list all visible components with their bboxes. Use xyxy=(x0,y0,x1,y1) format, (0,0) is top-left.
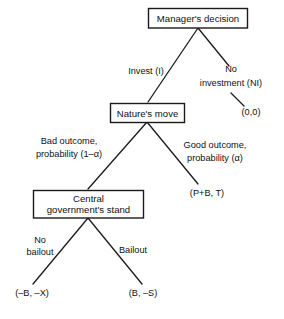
edge-label-bad-outcome-line2: probability (1–α) xyxy=(36,149,102,159)
edge-no-investment-payoff-line xyxy=(231,93,244,106)
node-managers-decision[interactable]: Manager's decision xyxy=(149,9,248,29)
edge-label-invest: Invest (I) xyxy=(128,66,164,76)
node-natures-move-label: Nature's move xyxy=(117,108,179,119)
node-central-governments-stand-label-line2: government's stand xyxy=(47,204,130,215)
payoff-no-investment: (0,0) xyxy=(242,107,261,117)
payoff-no-bailout: (–B, –X) xyxy=(15,288,49,298)
node-managers-decision-label: Manager's decision xyxy=(157,13,239,24)
edge-label-no-bailout-line1: No xyxy=(34,235,46,245)
edge-label-no-bailout-line2: bailout xyxy=(26,247,54,257)
edge-label-good-outcome-line2: probability (α) xyxy=(187,153,243,163)
edge-label-bad-outcome-line1: Bad outcome, xyxy=(41,136,98,146)
edge-label-no-investment-line2: investment (NI) xyxy=(200,78,262,88)
decision-tree-canvas: Manager's decision Nature's move Central… xyxy=(0,0,284,319)
payoff-good-outcome: (P+B, T) xyxy=(190,188,224,198)
edge-label-good-outcome-line1: Good outcome, xyxy=(184,140,247,150)
payoff-bailout: (B, –S) xyxy=(129,288,158,298)
node-natures-move[interactable]: Nature's move xyxy=(111,104,185,123)
node-central-governments-stand-label-line1: Central xyxy=(73,193,104,204)
edge-no-investment-line xyxy=(198,28,229,66)
edge-label-bailout: Bailout xyxy=(119,245,148,255)
decision-tree-diagram: Manager's decision Nature's move Central… xyxy=(0,0,284,319)
edge-invest-line xyxy=(148,28,198,102)
edge-label-no-investment-line1: No xyxy=(225,64,237,74)
node-central-governments-stand[interactable]: Central government's stand xyxy=(34,191,144,219)
